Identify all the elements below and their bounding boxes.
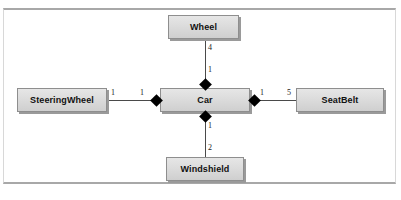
class-label-wheel: Wheel (190, 22, 217, 32)
link-car-steeringwheel (107, 100, 156, 101)
multiplicity-seatbelt-part: 5 (287, 89, 291, 97)
class-box-car[interactable]: Car (160, 88, 250, 112)
multiplicity-steeringwheel-part: 1 (111, 89, 115, 97)
multiplicity-wheel-whole: 1 (208, 66, 212, 74)
multiplicity-seatbelt-whole: 1 (260, 89, 264, 97)
class-label-seatbelt: SeatBelt (322, 95, 359, 105)
class-box-wheel[interactable]: Wheel (168, 15, 239, 39)
class-box-seatbelt[interactable]: SeatBelt (296, 88, 384, 112)
class-box-windshield[interactable]: Windshield (166, 157, 244, 181)
multiplicity-wheel-part: 4 (208, 44, 212, 52)
class-box-steeringwheel[interactable]: SteeringWheel (17, 88, 107, 112)
multiplicity-windshield-part: 2 (208, 144, 212, 152)
multiplicity-windshield-whole: 1 (208, 122, 212, 130)
class-label-car: Car (197, 95, 212, 105)
class-label-windshield: Windshield (181, 164, 230, 174)
multiplicity-steeringwheel-whole: 1 (140, 89, 144, 97)
class-label-steeringwheel: SteeringWheel (30, 95, 94, 105)
diagram-canvas: Wheel SteeringWheel Car SeatBelt Windshi… (0, 0, 401, 200)
